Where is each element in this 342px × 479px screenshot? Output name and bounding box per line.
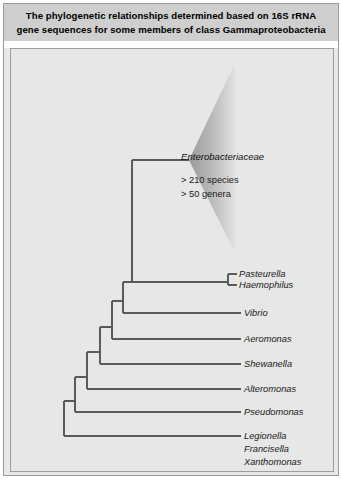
figure-title-bar: The phylogenetic relationships determine… xyxy=(4,4,338,41)
taxon-label-pasteurella: Pasteurella xyxy=(239,269,286,279)
taxon-label-haemophilus: Haemophilus xyxy=(239,280,293,290)
taxon-label-xanthomonas: Xanthomonas xyxy=(244,457,301,467)
clade-species-count: > 210 species xyxy=(181,175,239,185)
taxon-label-pseudomonas: Pseudomonas xyxy=(244,407,303,417)
taxon-label-shewanella: Shewanella xyxy=(244,359,292,369)
taxon-label-alteromonas: Alteromonas xyxy=(244,384,296,394)
taxon-label-aeromonas: Aeromonas xyxy=(244,334,292,344)
title-panel-separator xyxy=(4,41,338,48)
clade-label-enterobacteriaceae: Enterobacteriaceae xyxy=(181,151,264,162)
clade-genera-count: > 50 genera xyxy=(181,189,231,199)
taxon-label-francisella: Francisella xyxy=(244,444,289,454)
title-line-2: gene sequences for some members of class… xyxy=(16,23,325,37)
taxon-label-legionella: Legionella xyxy=(244,431,286,441)
phylogenetic-tree-figure: The phylogenetic relationships determine… xyxy=(0,0,342,479)
tree-plot-area: Enterobacteriaceae > 210 species > 50 ge… xyxy=(10,48,334,472)
title-line-1: The phylogenetic relationships determine… xyxy=(26,9,316,23)
taxon-label-vibrio: Vibrio xyxy=(244,308,268,318)
